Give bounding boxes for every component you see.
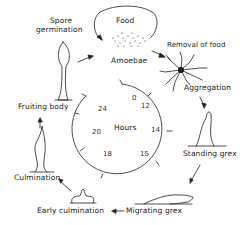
- label-culmination: Culmination: [14, 174, 60, 182]
- clock-tick-18: 18: [103, 151, 112, 158]
- label-standing-grex: Standing grex: [183, 150, 237, 158]
- label-migrating-grex: Migrating grex: [126, 207, 182, 215]
- label-food: Food: [116, 17, 134, 25]
- label-removal-of-food: Removal of food: [167, 42, 226, 49]
- culmination-shape: [35, 126, 47, 172]
- label-spore: Spore: [50, 17, 72, 25]
- standing-grex-shape: [196, 112, 214, 146]
- label-early-culmination: Early culmination: [37, 207, 104, 215]
- clock-center-label: Hours: [114, 124, 136, 132]
- clock-tick-15: 15: [140, 151, 149, 158]
- clock-tick-0: 0: [132, 95, 136, 102]
- clock-tick-20: 20: [92, 129, 101, 136]
- clock-tick-12: 12: [141, 103, 150, 110]
- clock-tick-14: 14: [151, 127, 160, 134]
- clock-tick-24: 24: [98, 106, 107, 113]
- food-particles: [112, 32, 145, 46]
- label-germination: germination: [36, 26, 83, 34]
- early-culmination-shape: [72, 189, 94, 203]
- label-fruiting-body: Fruiting body: [18, 103, 68, 111]
- label-amoebae: Amoebae: [111, 57, 147, 65]
- spore-germination-shape: [58, 42, 69, 100]
- label-aggregation: Aggregation: [184, 84, 231, 92]
- migrating-grex-shape: [144, 195, 193, 204]
